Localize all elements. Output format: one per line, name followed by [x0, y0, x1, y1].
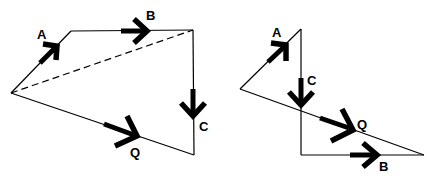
vector-c-right: C [289, 29, 317, 155]
label-b-left: B [146, 8, 155, 23]
vector-addition-figure: A B C Q [0, 0, 430, 178]
right-diagram: A C B Q [240, 25, 424, 174]
vector-a-left: A [11, 27, 71, 93]
label-b-right: B [379, 159, 388, 174]
label-q-right: Q [357, 117, 367, 132]
label-c-left: C [199, 119, 209, 134]
vector-q-left: Q [11, 93, 194, 160]
vector-a-right: A [240, 25, 301, 89]
label-a-left: A [37, 27, 47, 42]
left-diagram: A B C Q [11, 8, 209, 160]
vector-c-left: C [181, 30, 209, 155]
label-c-right: C [307, 73, 317, 88]
vector-b-right: B [301, 143, 424, 174]
vector-q-right: Q [240, 89, 424, 155]
label-q-left: Q [130, 145, 140, 160]
vector-b-left: B [71, 8, 193, 43]
label-a-right: A [272, 25, 282, 40]
